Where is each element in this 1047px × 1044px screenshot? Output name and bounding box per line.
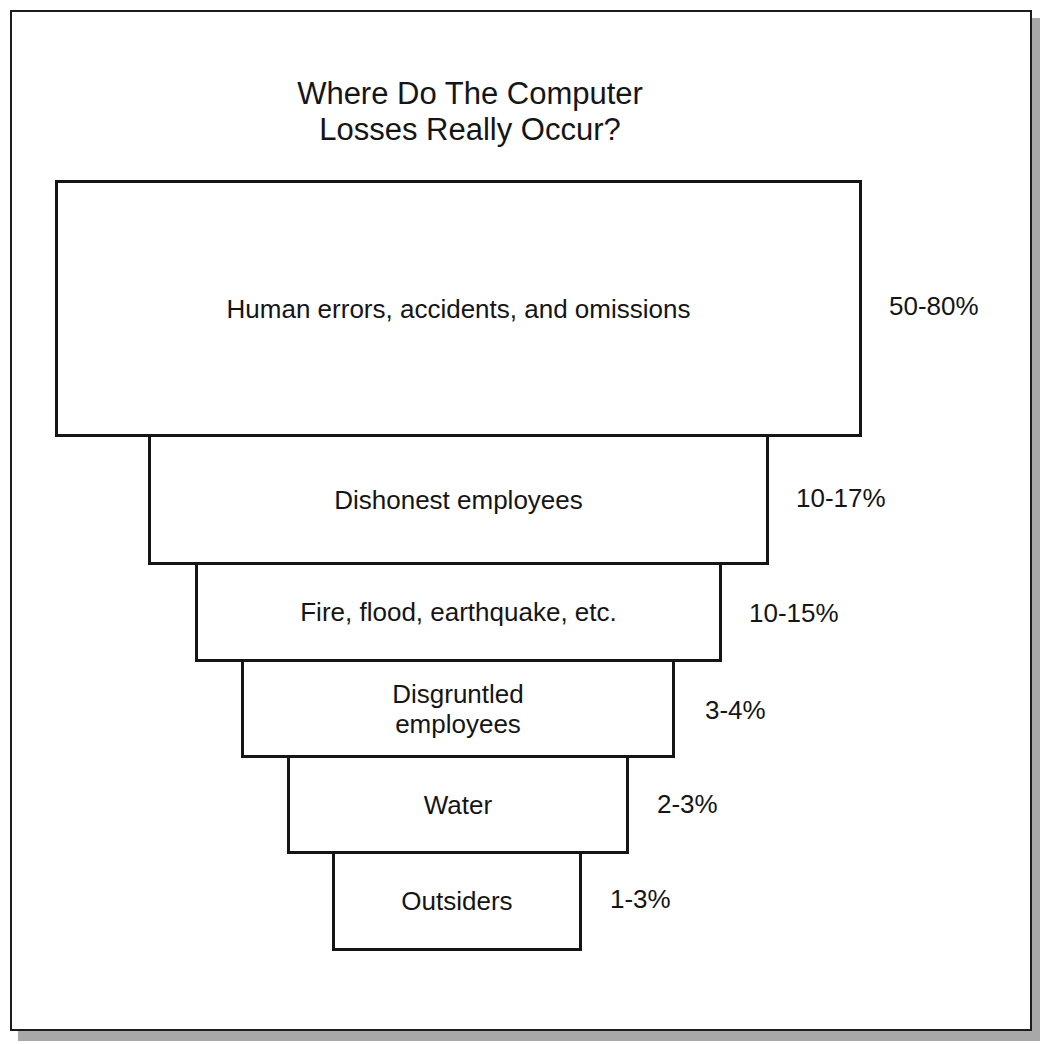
level-percent-water: 2-3% bbox=[657, 789, 718, 819]
level-box-outsiders: Outsiders bbox=[332, 851, 582, 951]
level-label-line-2: employees bbox=[392, 709, 524, 739]
title-line-1: Where Do The Computer bbox=[200, 76, 740, 112]
level-box-water: Water bbox=[287, 755, 629, 854]
level-label-line-1: Disgruntled bbox=[392, 679, 524, 709]
level-percent-human-errors: 50-80% bbox=[889, 291, 979, 321]
title-line-2: Losses Really Occur? bbox=[200, 112, 740, 148]
level-label: Outsiders bbox=[401, 886, 512, 916]
level-box-disgruntled-employees: Disgruntled employees bbox=[241, 659, 675, 758]
level-box-human-errors: Human errors, accidents, and omissions bbox=[55, 180, 862, 437]
level-box-dishonest-employees: Dishonest employees bbox=[148, 434, 769, 565]
level-percent-outsiders: 1-3% bbox=[610, 884, 671, 914]
level-percent-fire-flood-earthquake: 10-15% bbox=[749, 598, 839, 628]
level-box-fire-flood-earthquake: Fire, flood, earthquake, etc. bbox=[195, 562, 722, 662]
level-percent-disgruntled-employees: 3-4% bbox=[705, 695, 766, 725]
level-percent-dishonest-employees: 10-17% bbox=[796, 483, 886, 513]
level-label: Disgruntled employees bbox=[392, 679, 524, 739]
figure-title: Where Do The Computer Losses Really Occu… bbox=[200, 76, 740, 148]
level-label: Dishonest employees bbox=[334, 485, 583, 515]
level-label: Water bbox=[424, 790, 492, 820]
level-label: Human errors, accidents, and omissions bbox=[227, 294, 691, 324]
level-label: Fire, flood, earthquake, etc. bbox=[300, 597, 617, 627]
